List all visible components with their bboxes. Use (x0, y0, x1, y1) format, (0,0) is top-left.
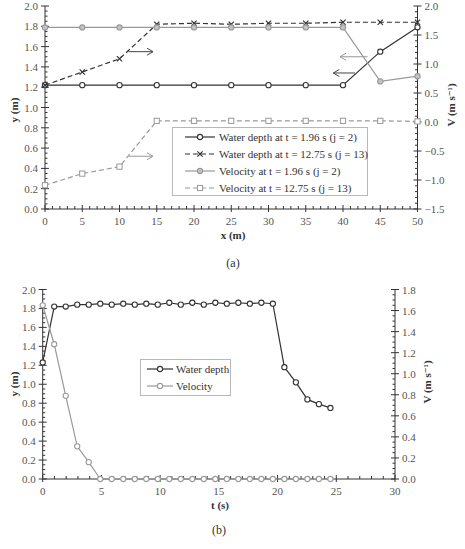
circle-marker (340, 83, 345, 88)
panel-caption: (a) (226, 256, 239, 270)
x-tick-label: 0 (42, 215, 48, 227)
circle-marker (328, 476, 333, 481)
y-tick-label: 1.2 (22, 359, 36, 371)
x-axis-label: x (m) (221, 229, 246, 242)
square-marker (340, 118, 345, 123)
circle-marker (86, 302, 91, 307)
y-axis-label: y (m) (8, 97, 21, 122)
square-marker (80, 171, 85, 176)
circle-marker (75, 302, 80, 307)
circle-marker (80, 83, 85, 88)
y2-tick-label: 1.2 (402, 347, 416, 359)
circle-marker (154, 25, 159, 30)
y-tick-label: 1.4 (24, 61, 38, 73)
y-tick-label: 1.6 (22, 321, 36, 333)
circle-marker (270, 301, 275, 306)
square-marker (378, 118, 383, 123)
legend-label: Velocity (176, 380, 213, 392)
y2-tick-label: 1.0 (402, 368, 416, 380)
legend-label: Velocity at t = 1.96 s (j = 2) (219, 165, 341, 178)
y-tick-label: 0.2 (24, 183, 38, 195)
x-tick-label: 10 (114, 215, 126, 227)
circle-marker (109, 302, 114, 307)
circle-marker (121, 301, 126, 306)
circle-marker (117, 83, 122, 88)
circle-marker (201, 302, 206, 307)
circle-marker (63, 304, 68, 309)
circle-marker (132, 476, 137, 481)
circle-marker (293, 380, 298, 385)
x-tick-label: 5 (99, 485, 105, 497)
circle-marker (155, 302, 160, 307)
x-tick-label: 45 (375, 215, 387, 227)
circle-marker (42, 25, 47, 30)
y-tick-label: 0.4 (24, 162, 38, 174)
x-tick-label: 5 (80, 215, 86, 227)
x-tick-label: 50 (412, 215, 424, 227)
circle-marker (270, 476, 275, 481)
circle-marker (191, 83, 196, 88)
circle-marker (282, 365, 287, 370)
legend: Water depth at t = 1.96 s (j = 2) Water … (173, 128, 369, 196)
circle-marker (213, 300, 218, 305)
y2-tick-label: −1.0 (425, 174, 445, 186)
y2-tick-label: 0.5 (425, 87, 439, 99)
circle-marker (415, 74, 420, 79)
y2-tick-label: 0.6 (402, 410, 416, 422)
circle-marker (197, 168, 202, 173)
circle-marker (190, 476, 195, 481)
circle-marker (259, 476, 264, 481)
y2-tick-label: 0.8 (402, 389, 416, 401)
square-marker (229, 118, 234, 123)
circle-marker (178, 476, 183, 481)
circle-marker (40, 303, 45, 308)
circle-marker (117, 25, 122, 30)
circle-marker (293, 476, 298, 481)
x-tick-label: 35 (300, 215, 312, 227)
y2-tick-label: 0.4 (402, 431, 416, 443)
circle-marker (303, 25, 308, 30)
y-tick-label: 0.8 (22, 397, 36, 409)
circle-marker (154, 83, 159, 88)
y-tick-label: 1.0 (22, 378, 36, 390)
x-tick-label: 0 (40, 485, 46, 497)
y-axis-label: y (m) (8, 371, 21, 396)
y-tick-label: 2.0 (24, 0, 38, 12)
circle-marker (266, 25, 271, 30)
circle-marker (80, 25, 85, 30)
y2-tick-label: 1.6 (402, 305, 416, 317)
legend-label: Water depth (176, 363, 230, 375)
legend-label: Water depth at t = 1.96 s (j = 2) (219, 131, 357, 144)
circle-marker (378, 49, 383, 54)
circle-marker (229, 25, 234, 30)
y-tick-label: 0.4 (22, 435, 36, 447)
square-marker (303, 118, 308, 123)
y-tick-label: 0.0 (22, 473, 36, 485)
y-tick-label: 0.0 (24, 203, 38, 215)
y-tick-label: 0.2 (22, 454, 36, 466)
circle-marker (316, 402, 321, 407)
circle-marker (98, 301, 103, 306)
circle-marker (415, 25, 420, 30)
circle-marker (247, 301, 252, 306)
circle-marker (75, 444, 80, 449)
y-tick-label: 0.6 (22, 416, 36, 428)
circle-marker (305, 397, 310, 402)
y-tick-label: 1.4 (22, 340, 36, 352)
circle-marker (40, 360, 45, 365)
y2-tick-label: 1.0 (425, 58, 439, 70)
circle-marker (340, 25, 345, 30)
x-axis-label: t (s) (211, 499, 229, 512)
circle-marker (157, 383, 162, 388)
circle-marker (247, 476, 252, 481)
circle-marker (190, 300, 195, 305)
circle-marker (86, 460, 91, 465)
y2-tick-label: 0.0 (425, 116, 439, 128)
panel-caption: (b) (212, 523, 226, 537)
circle-marker (328, 405, 333, 410)
circle-marker (229, 83, 234, 88)
circle-marker (224, 301, 229, 306)
y2-axis-label: V (m s⁻¹) (421, 360, 434, 403)
y-tick-label: 1.0 (24, 102, 38, 114)
square-marker (197, 185, 202, 190)
